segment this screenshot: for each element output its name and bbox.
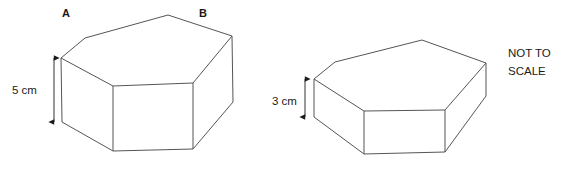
left-prism-bottom-edges — [62, 102, 233, 151]
left-prism-vertical-edge — [232, 36, 233, 102]
right-prism-bottom-edges — [314, 96, 486, 154]
left-prism — [61, 15, 233, 151]
left-prism-height-label: 5 cm — [12, 84, 37, 96]
right-prism-top-face — [314, 40, 486, 111]
not-to-scale-line-1: NOT TO — [508, 44, 551, 62]
vertex-label-b: B — [199, 7, 207, 19]
vertex-label-a: A — [62, 7, 70, 19]
not-to-scale-note: NOT TO SCALE — [508, 44, 551, 80]
right-prism — [314, 40, 486, 154]
left-prism-vertical-edge — [61, 58, 62, 122]
diagram-canvas: A B 5 cm 3 cm NOT TO SCALE — [0, 0, 570, 170]
right-prism-height-label: 3 cm — [272, 95, 297, 107]
not-to-scale-line-2: SCALE — [508, 62, 551, 80]
prisms-figure — [0, 0, 570, 170]
left-prism-top-face — [61, 15, 232, 86]
